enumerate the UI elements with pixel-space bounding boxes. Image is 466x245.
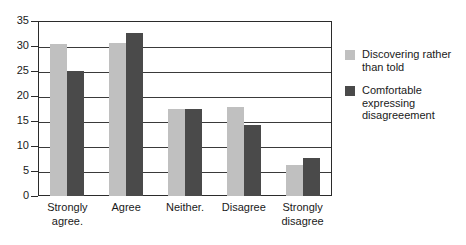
y-tick-label: 25	[17, 65, 29, 76]
y-tick-mark	[31, 121, 38, 122]
bar	[50, 44, 67, 197]
bar	[286, 165, 303, 196]
bar	[126, 33, 143, 196]
y-tick-mark	[31, 21, 38, 22]
y-tick-label: 15	[17, 115, 29, 126]
y-tick-label: 0	[23, 190, 29, 201]
bar	[67, 71, 84, 197]
legend: Discovering ratherthan toldComfortableex…	[345, 48, 466, 133]
legend-entry: Discovering ratherthan told	[345, 48, 466, 73]
y-tick-label: 35	[17, 15, 29, 26]
y-tick-label: 20	[17, 90, 29, 101]
bar	[109, 43, 126, 197]
y-tick-mark	[31, 196, 38, 197]
y-tick-mark	[31, 96, 38, 97]
y-tick-label: 30	[17, 40, 29, 51]
y-tick-label: 5	[23, 165, 29, 176]
y-tick-mark	[31, 146, 38, 147]
bar	[244, 125, 261, 197]
y-tick-mark	[31, 71, 38, 72]
bars-layer	[38, 21, 332, 196]
legend-entry: Comfortableexpressingdisagreeement	[345, 84, 466, 122]
legend-swatch	[345, 86, 355, 96]
x-axis-label: Stronglydisagree	[267, 200, 339, 228]
y-axis: 35302520151050	[0, 21, 38, 196]
bar	[227, 107, 244, 196]
y-tick-mark	[31, 46, 38, 47]
bar	[168, 109, 185, 197]
bar	[185, 109, 202, 197]
y-tick-mark	[31, 171, 38, 172]
bar-chart: 35302520151050 Stronglyagree.AgreeNeithe…	[0, 0, 466, 245]
x-axis-labels: Stronglyagree.AgreeNeither.DisagreeStron…	[38, 200, 332, 244]
legend-label: Comfortableexpressingdisagreeement	[362, 84, 466, 122]
y-tick-label: 10	[17, 140, 29, 151]
bar	[303, 158, 320, 197]
legend-label: Discovering ratherthan told	[362, 48, 466, 73]
legend-swatch	[345, 50, 355, 60]
